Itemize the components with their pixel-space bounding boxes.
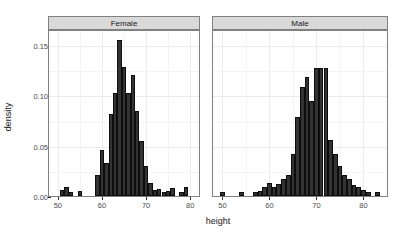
y-tick-label: 0.05 [33,142,48,151]
gridline-horizontal [49,46,199,47]
histogram-bar [69,192,73,196]
x-tick-label: 50 [54,201,62,210]
x-axis-male: 50607080 [212,197,388,217]
x-tick-label: 70 [312,201,320,210]
y-tick-label: 0.00 [33,193,48,202]
strip-female-label: Female [111,19,138,28]
x-axis-female: 50607080 [48,197,200,217]
panel-male: Male [212,16,388,197]
histogram-bar [220,192,225,196]
histogram-bar [184,187,188,196]
x-tick-mark [269,197,270,200]
gridline-vertical [387,31,388,196]
gridline-horizontal-minor [213,71,387,72]
histogram-bar [366,192,371,196]
histogram-bar [239,192,244,196]
y-axis: 0.150.100.050.00 [16,0,48,234]
x-tick-mark [58,197,59,200]
x-tick-mark [316,197,317,200]
plot-area-male [212,30,388,197]
plot-area-female [48,30,200,197]
y-tick-label: 0.10 [33,92,48,101]
x-tick-label: 80 [359,201,367,210]
x-tick-label: 60 [98,201,106,210]
x-tick-label: 80 [186,201,194,210]
strip-male-label: Male [291,19,308,28]
histogram-bar [375,192,380,196]
histogram-bar [170,188,174,196]
x-axis-title: height [48,216,388,226]
x-tick-label: 50 [218,201,226,210]
panel-female: Female [48,16,200,197]
strip-female: Female [48,16,200,30]
x-tick-mark [190,197,191,200]
x-axis-title-text: height [206,216,231,226]
x-tick-label: 70 [142,201,150,210]
x-tick-mark [363,197,364,200]
strip-male: Male [212,16,388,30]
x-tick-mark [102,197,103,200]
x-tick-mark [222,197,223,200]
y-axis-title: density [0,0,16,234]
histogram-bar [78,191,82,196]
y-axis-title-text: density [3,103,13,132]
x-tick-label: 60 [265,201,273,210]
y-tick-label: 0.15 [33,42,48,51]
x-tick-mark [146,197,147,200]
gridline-horizontal [213,46,387,47]
faceted-histogram-figure: density 0.150.100.050.00 Female Male 506… [0,0,398,234]
